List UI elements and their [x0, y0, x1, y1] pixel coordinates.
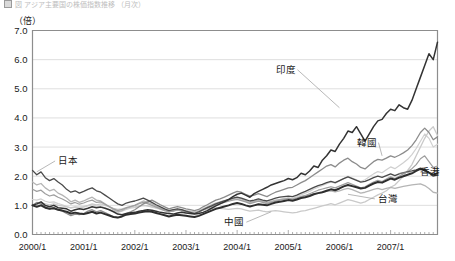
x-axis-tick-label: 2002/1: [121, 242, 149, 252]
leader-line-韓國: [379, 143, 383, 156]
leader-line-日本: [37, 161, 55, 172]
x-axis-tick-label: 2007/1: [377, 242, 405, 252]
stock-index-line-chart: 図 アジア主要国の株価指数推移 （月次） （倍） 0.01.02.03.04.0…: [0, 0, 455, 261]
x-axis-tick-label: 2005/1: [275, 242, 303, 252]
y-axis-tick-label: 3.0: [14, 142, 27, 153]
y-axis-tick-label: 4.0: [14, 112, 27, 123]
series-label-韓國: 韓國: [357, 137, 377, 148]
series-label-中國: 中國: [224, 216, 244, 227]
series-label-台灣: 台灣: [378, 193, 398, 204]
x-axis-tick-label: 2004/1: [223, 242, 251, 252]
y-axis-tick-label: 2.0: [14, 171, 27, 182]
x-axis-tick-label: 2000/1: [19, 242, 47, 252]
leader-line-中國: [246, 212, 271, 222]
y-axis-tick-label: 5.0: [14, 83, 27, 94]
x-axis-tick-label: 2001/1: [70, 242, 98, 252]
series-label-印度: 印度: [276, 64, 296, 75]
y-axis-tick-label: 7.0: [14, 25, 27, 36]
chart-svg: 0.01.02.03.04.05.06.07.02000/12001/12002…: [0, 0, 455, 261]
x-axis-tick-label: 2003/1: [172, 242, 200, 252]
y-axis-tick-label: 1.0: [14, 200, 27, 211]
series-label-香港: 香港: [420, 166, 440, 177]
series-label-日本: 日本: [58, 155, 78, 166]
y-axis-tick-label: 0.0: [14, 229, 27, 240]
y-axis-tick-label: 6.0: [14, 54, 27, 65]
x-axis-tick-label: 2006/1: [326, 242, 354, 252]
leader-line-台灣: [348, 194, 375, 199]
